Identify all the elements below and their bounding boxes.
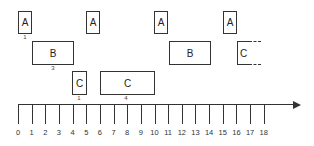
duration-label: 4: [124, 95, 127, 101]
task-a-2: A: [86, 11, 100, 34]
task-label: A: [90, 17, 97, 28]
tick-label: 7: [111, 128, 115, 137]
tick-label: 9: [139, 128, 143, 137]
axis-tick: [18, 104, 19, 124]
duration-label: 1: [23, 34, 26, 40]
axis-tick: [127, 104, 128, 124]
axis-tick: [195, 104, 196, 124]
duration-label: 1: [77, 95, 80, 101]
axis-arrow-icon: [293, 101, 301, 109]
task-label: B: [50, 48, 57, 59]
task-b-1: B: [32, 41, 74, 65]
axis-tick: [59, 104, 60, 124]
tick-label: 14: [205, 128, 213, 137]
tick-label: 10: [150, 128, 158, 137]
task-label: C: [76, 78, 83, 89]
task-c-1: C: [72, 71, 87, 95]
axis-tick: [45, 104, 46, 124]
task-label: C: [240, 48, 247, 59]
tick-label: 17: [246, 128, 254, 137]
tick-label: 1: [30, 128, 34, 137]
task-a-3: A: [154, 11, 168, 34]
task-b-2: B: [169, 41, 211, 65]
tick-label: 12: [178, 128, 186, 137]
continuation-dash-bottom: [249, 64, 261, 65]
duration-label: 3: [51, 65, 54, 71]
axis-tick: [264, 104, 265, 124]
task-label: A: [227, 17, 234, 28]
tick-label: 8: [125, 128, 129, 137]
tick-label: 2: [43, 128, 47, 137]
task-c-2: C: [100, 71, 155, 95]
axis-tick: [155, 104, 156, 124]
axis-tick: [100, 104, 101, 124]
axis-tick: [182, 104, 183, 124]
axis-tick: [223, 104, 224, 124]
tick-label: 0: [16, 128, 20, 137]
axis-tick: [86, 104, 87, 124]
axis-tick: [209, 104, 210, 124]
task-label: C: [124, 78, 131, 89]
task-label: A: [22, 17, 29, 28]
continuation-dash-top: [249, 41, 261, 42]
axis-tick: [236, 104, 237, 124]
task-label: B: [187, 48, 194, 59]
axis-tick: [114, 104, 115, 124]
tick-label: 6: [98, 128, 102, 137]
tick-label: 3: [57, 128, 61, 137]
tick-label: 13: [191, 128, 199, 137]
tick-label: 18: [260, 128, 268, 137]
task-label: A: [158, 17, 165, 28]
tick-label: 5: [84, 128, 88, 137]
axis-tick: [32, 104, 33, 124]
axis-tick: [168, 104, 169, 124]
tick-label: 15: [219, 128, 227, 137]
task-a-4: A: [223, 11, 237, 34]
tick-label: 4: [71, 128, 75, 137]
tick-label: 16: [232, 128, 240, 137]
task-a-1: A: [18, 11, 32, 34]
axis-tick: [73, 104, 74, 124]
tick-label: 11: [164, 128, 172, 137]
axis-tick: [141, 104, 142, 124]
task-c-3-continuing: C: [237, 41, 249, 65]
axis-tick: [250, 104, 251, 124]
